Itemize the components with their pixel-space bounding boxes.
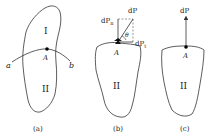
caption-b: (b) xyxy=(113,125,123,133)
diagram-canvas: I A a b II (a) θ dPn dP dPt A II (b) dP … xyxy=(0,0,211,138)
force-normal-label: dPn xyxy=(101,17,114,26)
panel-b: θ dPn dP dPt A II (b) xyxy=(95,7,146,133)
region-label-upper: I xyxy=(44,26,48,36)
body-outline xyxy=(23,6,61,112)
caption-a: (a) xyxy=(33,125,43,133)
region-label-lower: II xyxy=(42,84,50,94)
force-label: dP xyxy=(180,7,189,15)
panel-c: dP A II (c) xyxy=(162,7,204,133)
angle-label: θ xyxy=(125,31,129,38)
panel-a: I A a b II (a) xyxy=(6,6,74,133)
point-label: A xyxy=(113,49,119,57)
force-total-label: dP xyxy=(128,7,137,15)
region-label: II xyxy=(113,81,121,91)
curve-start-label: a xyxy=(6,61,11,70)
point-label: A xyxy=(182,52,188,60)
region-label: II xyxy=(180,81,188,91)
caption-c: (c) xyxy=(180,125,190,133)
cut-curve xyxy=(12,49,70,62)
curve-end-label: b xyxy=(69,61,74,70)
point-label: A xyxy=(42,54,48,62)
point-a-dot xyxy=(45,47,49,51)
force-tangent-label: dPt xyxy=(135,40,146,49)
point-a-dot xyxy=(184,45,188,49)
